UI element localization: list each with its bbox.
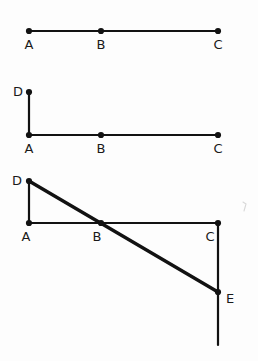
vertex-point-a <box>26 132 32 138</box>
vertex-label-b: B <box>93 229 102 244</box>
figure-root: ABCDABCDABCE <box>0 0 258 361</box>
vertex-point-b <box>98 28 104 34</box>
vertex-point-a <box>26 220 32 226</box>
vertex-point-b <box>98 132 104 138</box>
vertex-label-a: A <box>22 229 31 244</box>
vertex-point-d <box>26 178 32 184</box>
segment-abc-with-da: DABC <box>13 84 223 156</box>
vertex-label-c: C <box>213 37 222 52</box>
faint-pencil-mark <box>243 202 246 211</box>
vertex-point-c <box>215 28 221 34</box>
vertex-label-a: A <box>25 37 34 52</box>
full-construction-with-de-and-ce: DABCE <box>12 173 246 345</box>
vertex-label-c: C <box>213 141 222 156</box>
segment-abc: ABC <box>25 28 223 52</box>
vertex-point-a <box>26 28 32 34</box>
vertex-label-c: C <box>205 229 214 244</box>
vertex-label-e: E <box>226 291 234 306</box>
vertex-point-d <box>26 89 32 95</box>
geometry-canvas: ABCDABCDABCE <box>0 0 258 361</box>
vertex-label-d: D <box>13 84 23 99</box>
vertex-point-c <box>215 220 221 226</box>
vertex-label-d: D <box>12 173 22 188</box>
vertex-label-a: A <box>25 141 34 156</box>
vertex-label-b: B <box>97 37 106 52</box>
vertex-point-c <box>215 132 221 138</box>
vertex-point-b <box>98 220 104 226</box>
segment-d-to-e-diagonal <box>29 181 218 292</box>
vertex-point-e <box>215 289 221 295</box>
vertex-label-b: B <box>97 141 106 156</box>
